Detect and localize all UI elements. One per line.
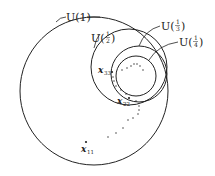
label-U1: U(1) bbox=[66, 11, 91, 24]
svg-text:U(: U( bbox=[91, 32, 105, 45]
point-x22: x 22 bbox=[116, 96, 130, 107]
svg-text:33: 33 bbox=[104, 70, 111, 76]
point-x33: x 33 bbox=[97, 65, 113, 76]
svg-text:): ) bbox=[199, 36, 203, 49]
diagram-canvas: U(1) U( 1 2 ) U( 1 3 ) U( 1 4 ) x 11 bbox=[0, 0, 215, 176]
svg-text:): ) bbox=[181, 20, 185, 33]
svg-text:1: 1 bbox=[176, 18, 180, 25]
svg-text:1: 1 bbox=[106, 30, 110, 37]
nested-sets-diagram: U(1) U( 1 2 ) U( 1 3 ) U( 1 4 ) x 11 bbox=[0, 0, 215, 176]
svg-text:2: 2 bbox=[106, 37, 110, 44]
svg-text:4: 4 bbox=[194, 41, 198, 48]
svg-text:x: x bbox=[116, 96, 123, 106]
svg-text:U(: U( bbox=[179, 36, 193, 49]
svg-text:22: 22 bbox=[123, 101, 130, 107]
svg-text:x: x bbox=[80, 144, 87, 154]
leader-line-U1 bbox=[56, 17, 66, 22]
svg-text:1: 1 bbox=[194, 34, 198, 41]
point-x11: x 11 bbox=[80, 141, 94, 155]
svg-text:11: 11 bbox=[87, 149, 94, 155]
leader-line-U1_3 bbox=[139, 26, 160, 46]
label-U1_2: U( 1 2 ) bbox=[91, 30, 115, 45]
set-U1_3-circle bbox=[111, 46, 167, 102]
svg-text:): ) bbox=[111, 32, 115, 45]
svg-text:3: 3 bbox=[176, 25, 180, 32]
set-U1_4-circle bbox=[116, 56, 156, 96]
svg-text:x: x bbox=[97, 65, 104, 75]
svg-text:U(1): U(1) bbox=[66, 11, 91, 24]
label-U1_3: U( 1 3 ) bbox=[161, 18, 185, 33]
svg-text:U(: U( bbox=[161, 20, 175, 33]
label-U1_4: U( 1 4 ) bbox=[179, 34, 203, 49]
